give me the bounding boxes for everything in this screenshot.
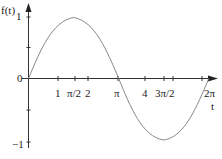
y-tick-label-0: 0	[17, 72, 23, 84]
x-tick-label-3pi-half: 3π/2	[155, 87, 175, 99]
x-tick-label-pi: π	[114, 87, 120, 99]
x-tick-label-4: 4	[142, 87, 148, 99]
x-axis-arrow-icon	[208, 76, 218, 82]
y-tick-label-1: 1	[16, 10, 22, 22]
sine-chart: f(t) 1 0 −1 1 π/2 2 π 4 3π/2 2π t	[0, 0, 222, 159]
x-axis-label: t	[211, 100, 214, 112]
x-tick-label-pi-half: π/2	[67, 87, 81, 99]
x-tick-label-1: 1	[55, 87, 61, 99]
y-tick-label-neg1: −1	[12, 138, 24, 150]
x-tick-label-2: 2	[85, 87, 91, 99]
y-axis-arrow-icon	[26, 3, 32, 12]
y-axis-label: f(t)	[1, 4, 15, 17]
x-tick-label-2pi: 2π	[204, 87, 216, 99]
